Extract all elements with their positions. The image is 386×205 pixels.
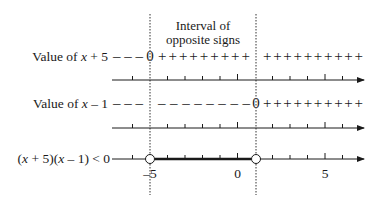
row2-label: Value of x – 1: [33, 96, 108, 111]
row1-signs-left: – – –: [112, 48, 144, 64]
open-endpoint-1: [252, 155, 261, 164]
inequality-label: (x + 5)(x – 1) < 0: [18, 151, 111, 166]
tick-label-5: 5: [322, 166, 329, 181]
row1-label: Value of x + 5: [32, 49, 108, 64]
interval-title-line2: opposite signs: [166, 32, 240, 47]
tick-label-minus5: –5: [142, 166, 157, 181]
interval-title-line1: Interval of: [176, 18, 231, 33]
open-endpoint-minus5: [146, 155, 155, 164]
row2-signs-right: + + + + + + + + + +: [263, 95, 363, 111]
tick-label-0: 0: [234, 166, 241, 181]
row1-signs-right: + + + + + + + + + +: [263, 48, 363, 64]
row1-signs-middle: + + + + + + + + +: [158, 48, 250, 64]
row2-zero: 0: [252, 95, 260, 111]
row2-signs-middle: – – – – – – – –: [157, 95, 251, 111]
sign-chart-diagram: Interval of opposite signs Value of x + …: [0, 0, 386, 205]
row1-zero: 0: [146, 48, 154, 64]
row2-signs-left: – – –: [112, 95, 144, 111]
